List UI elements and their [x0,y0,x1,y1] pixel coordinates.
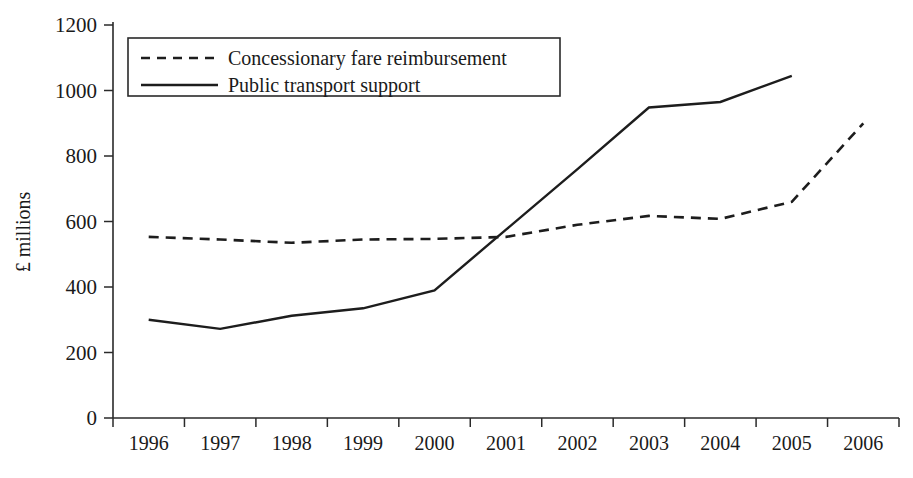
x-tick-label-1996: 1996 [129,432,169,454]
x-tick-label-2003: 2003 [629,432,669,454]
x-tick-label-1999: 1999 [343,432,383,454]
x-tick-label-2002: 2002 [557,432,597,454]
x-tick-label-1998: 1998 [272,432,312,454]
legend-label-1: Public transport support [228,74,421,97]
legend: Concessionary fare reimbursement Public … [128,38,560,97]
y-axis-title: £ millions [12,192,34,273]
x-tick-label-2005: 2005 [772,432,812,454]
chart-canvas: 020040060080010001200 £ millions 1996199… [0,0,913,478]
y-tick-label-1: 200 [66,341,98,365]
x-tick-label-2006: 2006 [843,432,883,454]
y-tick-label-6: 1200 [55,13,97,37]
y-tick-label-4: 800 [66,144,98,168]
y-tick-label-2: 400 [66,275,98,299]
x-tick-label-2001: 2001 [486,432,526,454]
x-tick-label-2004: 2004 [700,432,740,454]
y-tick-label-0: 0 [87,406,98,430]
line-chart: 020040060080010001200 £ millions 1996199… [0,0,913,478]
y-tick-label-5: 1000 [55,79,97,103]
x-tick-label-1997: 1997 [200,432,240,454]
y-tick-label-3: 600 [66,210,98,234]
legend-label-0: Concessionary fare reimbursement [228,47,507,70]
x-tick-label-2000: 2000 [415,432,455,454]
